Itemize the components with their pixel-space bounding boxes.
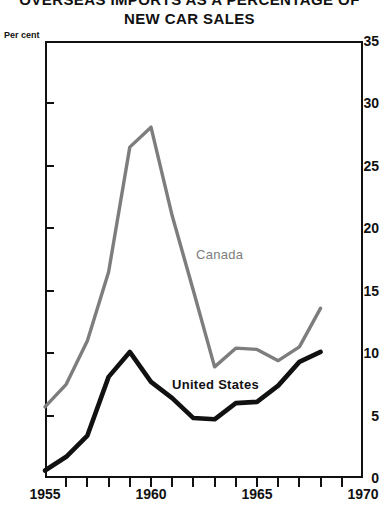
x-tick-mark — [277, 478, 279, 487]
x-tick-label: 1970 — [333, 486, 384, 502]
y-tick-label: 30 — [339, 95, 379, 111]
y-tick-mark — [45, 352, 54, 354]
x-tick-label: 1955 — [15, 486, 75, 502]
chart-title-line-2: NEW CAR SALES — [0, 9, 379, 28]
x-tick-mark — [65, 478, 67, 487]
y-axis-unit-label: Per cent — [4, 30, 40, 40]
y-tick-label: 10 — [339, 345, 379, 361]
y-tick-mark — [45, 227, 54, 229]
y-tick-label: 20 — [339, 220, 379, 236]
y-tick-label: 0 — [339, 470, 379, 486]
x-tick-mark — [298, 478, 300, 487]
y-tick-mark — [45, 290, 54, 292]
y-tick-label: 25 — [339, 158, 379, 174]
x-tick-mark — [108, 478, 110, 487]
y-tick-mark — [45, 415, 54, 417]
series-label-united-states: United States — [172, 377, 259, 392]
y-tick-label: 15 — [339, 283, 379, 299]
series-label-canada: Canada — [196, 247, 243, 262]
x-tick-mark — [214, 478, 216, 487]
x-tick-mark — [320, 478, 322, 487]
y-tick-mark — [45, 102, 54, 104]
y-tick-mark — [45, 165, 54, 167]
x-tick-mark — [171, 478, 173, 487]
y-tick-label: 35 — [339, 33, 379, 49]
x-tick-mark — [86, 478, 88, 487]
x-tick-label: 1960 — [121, 486, 181, 502]
x-tick-label: 1965 — [227, 486, 287, 502]
chart-title-line-1: OVERSEAS IMPORTS AS A PERCENTAGE OF — [0, 0, 379, 9]
y-tick-label: 5 — [339, 408, 379, 424]
x-tick-mark — [192, 478, 194, 487]
